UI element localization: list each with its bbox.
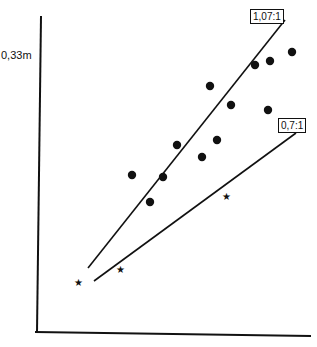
data-point-dot — [198, 153, 206, 161]
x-axis — [35, 332, 311, 336]
data-point-dot — [288, 48, 296, 56]
chart-canvas: ★★★ — [0, 0, 317, 347]
data-point-star: ★ — [116, 264, 125, 275]
y-tick-label: 0,33m — [1, 49, 32, 61]
data-point-dot — [227, 101, 235, 109]
data-point-star: ★ — [74, 277, 83, 288]
data-point-dot — [128, 171, 136, 179]
regression-line-1 — [88, 20, 285, 268]
data-point-dot — [159, 173, 167, 181]
data-point-star: ★ — [222, 191, 231, 202]
data-point-dot — [213, 136, 221, 144]
data-point-dot — [266, 57, 274, 65]
data-point-dot — [173, 141, 181, 149]
data-point-dot — [264, 106, 272, 114]
data-point-dot — [146, 198, 154, 206]
dot-series — [128, 48, 296, 206]
line-label-1: 1,07:1 — [250, 9, 284, 24]
data-point-dot — [206, 82, 214, 90]
data-point-dot — [251, 61, 259, 69]
y-axis — [37, 16, 41, 332]
line-label-2: 0,7:1 — [278, 118, 306, 133]
regression-line-2 — [94, 133, 296, 281]
